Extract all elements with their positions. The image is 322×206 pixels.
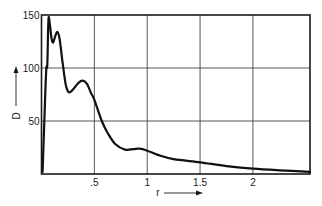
y-tick-label: 50 (28, 116, 40, 127)
y-tick-labels: 50100150 (23, 10, 40, 127)
y-tick-label: 150 (23, 10, 40, 21)
x-axis-title: r (156, 187, 160, 198)
x-tick-labels: .511.52 (90, 177, 256, 188)
x-axis-arrowhead-icon (196, 191, 203, 196)
x-tick-label: 1 (144, 177, 150, 188)
y-axis-title-group: D (11, 66, 22, 120)
gridlines (42, 15, 311, 174)
x-tick-label: 1.5 (193, 177, 207, 188)
y-tick-label: 100 (23, 63, 40, 74)
y-axis-title: D (11, 112, 22, 119)
chart: .511.52 50100150 D r (0, 0, 322, 206)
x-tick-label: .5 (90, 177, 99, 188)
plot-frame (42, 15, 311, 174)
x-axis-title-group: r (156, 187, 203, 198)
x-tick-label: 2 (250, 177, 256, 188)
data-curve (43, 17, 310, 172)
y-axis-arrowhead-icon (14, 66, 19, 73)
